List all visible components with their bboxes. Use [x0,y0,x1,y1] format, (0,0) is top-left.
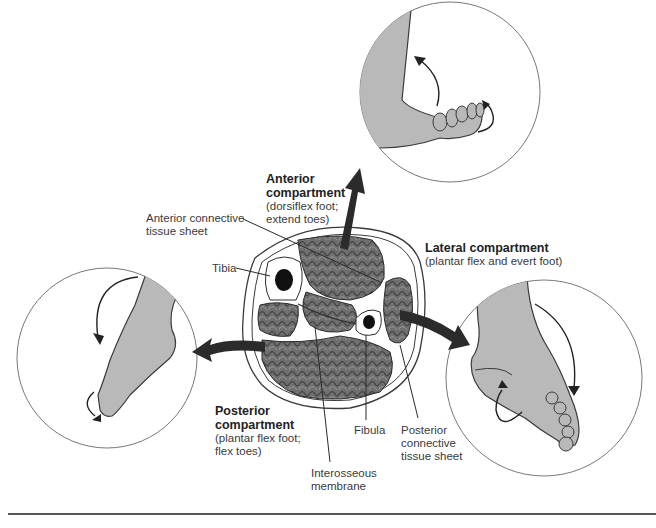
interosseous-line-1: Interosseous [311,467,377,480]
tibialis-posterior-muscle [258,303,298,337]
posterior-title-1: Posterior [215,404,301,418]
posterior-action-circle [17,268,197,448]
anterior-action-circle [345,0,540,182]
lateral-title: Lateral compartment [425,241,562,255]
posterior-sheet-label: Posterior connective tissue sheet [401,424,462,463]
fibula-marrow [363,315,375,329]
anterior-sheet-line-1: Anterior connective [146,212,244,225]
interosseous-line-2: membrane [311,480,377,493]
anterior-compartment-label: Anterior compartment (dorsiflex foot; ex… [266,172,345,226]
leg-cross-section [243,227,425,408]
interosseous-label: Interosseous membrane [311,467,377,493]
lateral-compartment-label: Lateral compartment (plantar flex and ev… [425,241,562,268]
lateral-desc: (plantar flex and evert foot) [425,255,562,268]
posterior-sheet-line-3: tissue sheet [401,450,462,463]
posterior-compartment-label: Posterior compartment (plantar flex foot… [215,404,301,458]
anterior-sheet-label: Anterior connective tissue sheet [146,212,244,238]
posterior-desc-1: (plantar flex foot; [215,432,301,445]
posterior-title-2: compartment [215,418,301,432]
anterior-sheet-line-2: tissue sheet [146,225,244,238]
lateral-action-circle [446,277,642,476]
anterior-title-1: Anterior [266,172,345,186]
bottom-rule [8,513,656,515]
anterior-title-2: compartment [266,186,345,200]
fibula-label: Fibula [354,424,385,437]
tibia-marrow [275,269,293,291]
posterior-desc-2: flex toes) [215,445,301,458]
anterior-desc-2: extend toes) [266,213,345,226]
posterior-sheet-line-1: Posterior [401,424,462,437]
posterior-sheet-line-2: connective [401,437,462,450]
tibia-label: Tibia [212,262,237,275]
lateral-muscle-group [384,278,413,343]
anterior-desc-1: (dorsiflex foot; [266,200,345,213]
